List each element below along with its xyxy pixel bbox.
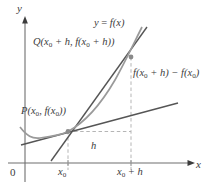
rise-label-a: f(x (133, 67, 144, 78)
q-label-mid: + h, f(x (52, 36, 86, 47)
tick-label-x0-plus-h: x0 + h (117, 167, 143, 179)
y-axis-arrowhead (22, 16, 28, 24)
p-label-head: P(x (21, 105, 36, 116)
p-label-mid: , f(x (39, 105, 55, 116)
tick-label-x0: x0 (58, 167, 66, 179)
guide-lines (68, 57, 131, 170)
origin-label: 0 (10, 167, 16, 178)
rise-difference-label: f(x0 + h) − f(x0) (133, 68, 199, 80)
x0-subscript: 0 (63, 171, 67, 179)
function-label-arg: (x) (113, 17, 125, 28)
y-axis-label: y (17, 3, 22, 14)
function-equation-label: y = f(x) (94, 18, 124, 29)
point-q-marker (129, 55, 134, 60)
rise-label-c: ) (196, 67, 200, 78)
x-axis-arrowhead (188, 160, 196, 166)
x-axis (8, 160, 195, 166)
point-p-marker (66, 129, 71, 134)
run-h-label: h (91, 141, 96, 152)
x0h-rest: + h (125, 166, 143, 177)
point-q-label: Q(x0 + h, f(x0 + h)) (33, 37, 114, 49)
rise-label-b: + h) − f(x (148, 67, 193, 78)
calculus-secant-figure: y x 0 y = f(x) Q(x0 + h, f(x0 + h)) f(x0… (0, 0, 214, 191)
q-label-head: Q(x (33, 36, 49, 47)
p-label-tail: )) (59, 105, 66, 116)
x-axis-label: x (196, 159, 201, 170)
q-label-tail: + h)) (90, 36, 115, 47)
figure-canvas (0, 0, 214, 191)
y-axis (22, 16, 28, 182)
point-p-label: P(x0, f(x0)) (21, 106, 66, 118)
function-label-equals: = (99, 17, 110, 28)
